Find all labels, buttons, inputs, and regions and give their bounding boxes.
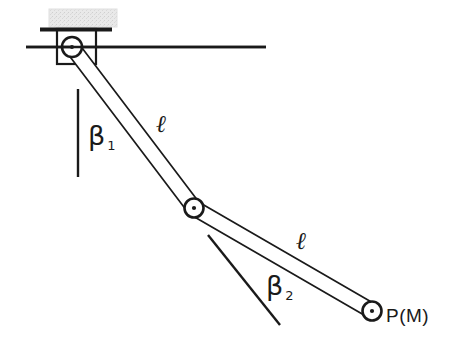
- ceiling-support-block: [49, 9, 117, 27]
- beta1-label: β1: [88, 122, 114, 149]
- beta2-symbol: β: [266, 270, 283, 301]
- beta1-symbol: β: [88, 120, 105, 151]
- beta1-subscript: 1: [107, 138, 115, 153]
- double-pendulum-figure: β1 ℓ β2 ℓ P(M): [0, 0, 462, 342]
- beta2-label: β2: [266, 272, 292, 299]
- endpoint-center-dot: [370, 309, 374, 313]
- first-link-length-label: ℓ: [156, 112, 166, 136]
- endpoint-label: P(M): [386, 306, 429, 325]
- beta2-subscript: 2: [285, 288, 293, 303]
- middle-joint-center-dot: [192, 206, 196, 210]
- pendulum-diagram-svg: [0, 0, 462, 342]
- second-link-length-label: ℓ: [296, 229, 306, 253]
